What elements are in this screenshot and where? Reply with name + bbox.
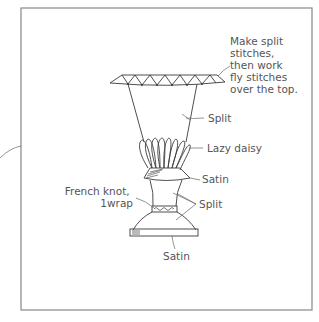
- satin-base: [130, 229, 198, 236]
- label-split-upper: Split: [208, 112, 231, 124]
- french-knot-band: [152, 206, 177, 212]
- lazy-daisy-petals: [140, 138, 191, 170]
- label-satin-collar: Satin: [202, 173, 229, 185]
- label-french-knot: French knot, 1wrap: [65, 185, 134, 209]
- vase-neck: [150, 180, 182, 206]
- vase-bowl: [133, 212, 196, 230]
- label-lazy-daisy: Lazy daisy: [207, 142, 262, 154]
- label-top-note: Make split stitches, then work fly stitc…: [230, 35, 298, 95]
- label-satin-base: Satin: [163, 250, 190, 262]
- stitch-diagram: Make split stitches, then work fly stitc…: [0, 0, 319, 322]
- split-stitch-stems: [128, 84, 197, 142]
- fly-stitch-band: [110, 75, 225, 86]
- label-split-lower: Split: [199, 198, 222, 210]
- satin-collar: [144, 168, 190, 181]
- adjacent-arc: [0, 146, 21, 158]
